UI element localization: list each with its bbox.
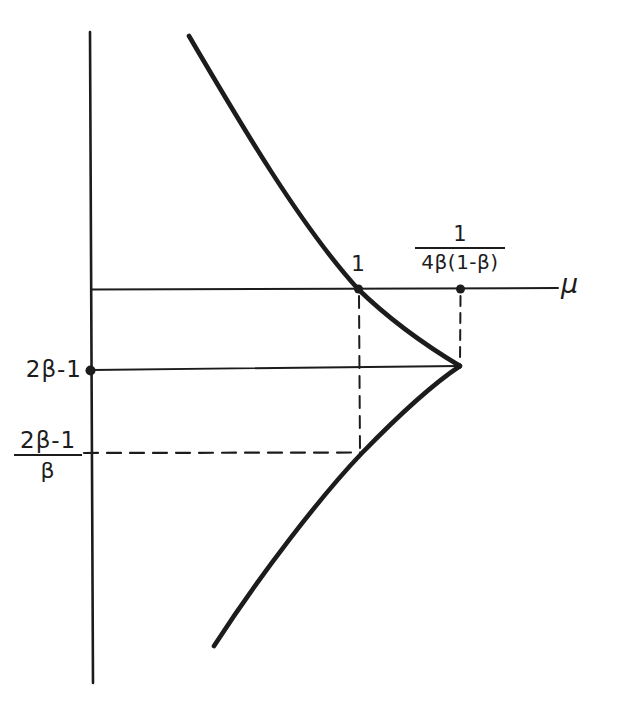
mu-axis [91, 288, 558, 290]
vertex-level-label: 2β-1 [22, 358, 82, 381]
dashed-drop-at-crossing [359, 296, 360, 452]
curve [189, 36, 460, 646]
y-axis [90, 32, 93, 683]
figure-canvas: μ 1 2β-1 2β-1 β 1 4β(1-β) [0, 0, 618, 707]
dot-vertex-level-on-y-axis [86, 366, 96, 376]
mu-axis-label: μ [561, 270, 578, 297]
ratio-fraction-denominator: β [14, 454, 82, 482]
axis-crossing-label-one: 1 [351, 253, 365, 275]
dashed-level-ratio [84, 453, 360, 454]
ratio-fraction-label: 2β-1 β [14, 428, 82, 482]
dot-vertex [455, 363, 461, 369]
max-fraction-denominator: 4β(1-β) [415, 247, 505, 273]
dashed-drop-at-vertex [460, 296, 461, 362]
max-fraction-numerator: 1 [447, 223, 472, 247]
vertex-level-line [92, 366, 459, 370]
figure-svg [0, 0, 618, 707]
dot-max-on-axis [456, 285, 465, 294]
max-fraction-label: 1 4β(1-β) [415, 223, 505, 273]
dot-curve-axis-crossing [354, 285, 363, 294]
ratio-fraction-numerator: 2β-1 [14, 428, 82, 454]
